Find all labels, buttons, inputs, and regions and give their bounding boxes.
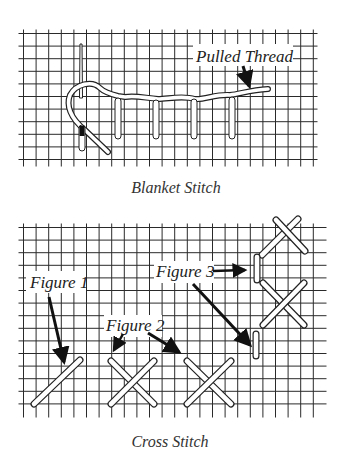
figure-3-arrow-top <box>213 270 245 271</box>
figure-3-arrow-bottom <box>193 284 250 345</box>
cross-stitch-caption: Cross Stitch <box>131 433 208 450</box>
figure-1-label: Figure 1 <box>29 273 88 292</box>
cross-stitch-grid <box>19 224 327 418</box>
figure-3-label: Figure 3 <box>155 262 214 281</box>
needle-icon <box>80 44 83 98</box>
pulled-thread-label: Pulled Thread <box>195 47 294 66</box>
figure-2-label: Figure 2 <box>105 316 165 335</box>
cross-stitches <box>34 219 305 404</box>
stitch-diagram-canvas: Pulled Thread Blanket Stitch Figure 1 Fi… <box>0 0 352 471</box>
pulled-thread-arrow <box>243 66 249 86</box>
blanket-stitch-caption: Blanket Stitch <box>131 179 220 196</box>
